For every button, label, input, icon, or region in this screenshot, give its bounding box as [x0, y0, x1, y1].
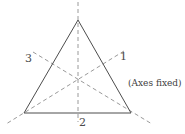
figure-canvas [0, 0, 185, 134]
axis-1-label: 1 [120, 51, 127, 62]
axis-2-label: 2 [79, 117, 86, 128]
axis-3-label: 3 [25, 53, 32, 64]
triangle-symmetry-figure: 1 2 3 (Axes fixed) [0, 0, 185, 134]
axes-fixed-note: (Axes fixed) [128, 79, 182, 88]
